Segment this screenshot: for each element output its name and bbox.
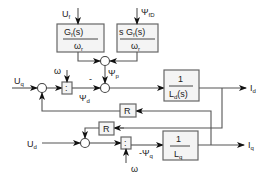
gf-block: Gf(s) ωr — [57, 24, 104, 52]
psi-fd-label: ΨfD — [141, 7, 155, 18]
ud-summing-junction — [81, 139, 90, 148]
omega-top-label: ω — [54, 66, 61, 76]
svg-text::: : — [65, 83, 68, 93]
svg-text:Ld(s): Ld(s) — [169, 89, 188, 100]
ld-block: 1 Ld(s) — [164, 70, 199, 101]
r-block-lower: R — [99, 122, 114, 135]
svg-text:R: R — [124, 106, 131, 116]
gf-to-sum-line — [78, 52, 100, 61]
psi-p-summing-junction — [101, 57, 110, 66]
uq-label: Uq — [14, 76, 24, 87]
svg-text:Gf(s): Gf(s) — [64, 27, 83, 38]
svg-text:R: R — [103, 124, 110, 134]
lq-block: 1 Lq — [163, 131, 198, 160]
divider-block-top: : — [62, 82, 72, 94]
psi-d-label: Ψd — [79, 93, 90, 104]
sgf-block: s Gf(s) ωr — [117, 24, 158, 52]
r-lower-to-ud-sum-line — [85, 128, 99, 138]
psi-d-summing-junction — [101, 84, 110, 93]
id-label: Id — [250, 83, 256, 94]
ud-label: Ud — [27, 139, 37, 150]
iq-label: Iq — [248, 140, 254, 151]
svg-text:s Gf(s): s Gf(s) — [119, 27, 145, 38]
r-block-upper: R — [120, 104, 136, 117]
uf-label: Uf — [62, 9, 71, 20]
minus-sign: - — [89, 74, 92, 84]
divider-block-bottom: : — [121, 137, 131, 149]
omega-bottom-label: ω — [131, 164, 138, 174]
svg-text::: : — [124, 138, 127, 148]
block-diagram: Gf(s) ωr Uf s Gf(s) ωr ΨfD Ψp Uq : ω Ψd … — [0, 0, 273, 180]
svg-text:1: 1 — [176, 134, 181, 144]
uq-summing-junction — [38, 84, 47, 93]
svg-text:1: 1 — [178, 74, 183, 84]
psi-p-label: Ψp — [108, 68, 120, 79]
sgf-to-sum-line — [110, 52, 137, 61]
neg-psi-q-label: -Ψq — [139, 148, 153, 159]
